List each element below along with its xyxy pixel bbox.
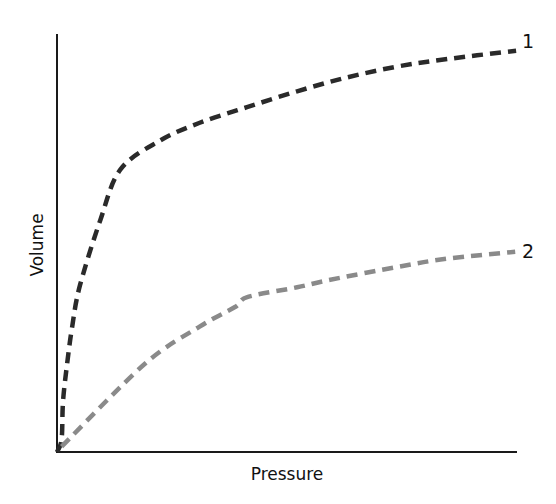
series-1-end-label: 1 (522, 30, 534, 52)
x-axis-title: Pressure (251, 464, 324, 484)
y-axis-title: Volume (27, 213, 47, 276)
series-1-line (57, 51, 516, 452)
series-2-line (62, 252, 516, 447)
pressure-volume-chart: 1 2 Pressure Volume (0, 0, 556, 504)
series-2-end-label: 2 (522, 240, 534, 262)
